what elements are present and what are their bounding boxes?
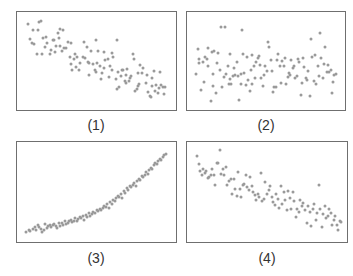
data-point xyxy=(41,231,44,234)
data-point xyxy=(331,224,334,227)
data-point xyxy=(246,55,249,58)
data-point xyxy=(157,87,160,90)
data-point xyxy=(259,171,262,174)
data-point xyxy=(220,25,223,28)
data-point xyxy=(132,58,135,61)
data-point xyxy=(239,83,242,86)
data-point xyxy=(274,86,277,89)
data-point xyxy=(44,35,47,38)
data-point xyxy=(113,200,116,203)
data-point xyxy=(223,25,226,28)
data-point xyxy=(332,80,335,83)
data-point xyxy=(281,202,284,205)
data-point xyxy=(238,188,241,191)
data-point xyxy=(56,32,59,35)
data-point xyxy=(261,85,264,88)
data-point xyxy=(255,199,258,202)
data-point xyxy=(147,90,150,93)
data-point xyxy=(92,62,95,65)
data-point xyxy=(239,72,242,75)
data-point xyxy=(197,61,200,64)
data-point xyxy=(77,69,80,72)
data-point xyxy=(218,148,221,151)
data-point xyxy=(223,174,226,177)
data-point xyxy=(136,71,139,74)
data-point xyxy=(160,158,163,161)
data-point xyxy=(284,199,287,202)
data-point xyxy=(285,209,288,212)
data-point xyxy=(37,28,40,31)
data-point xyxy=(152,69,155,72)
data-point xyxy=(281,60,284,63)
data-point xyxy=(266,41,269,44)
data-point xyxy=(238,98,241,101)
data-point xyxy=(276,59,279,62)
data-point xyxy=(144,81,147,84)
data-point xyxy=(127,189,130,192)
data-point xyxy=(216,61,219,64)
data-point xyxy=(197,163,200,166)
data-point xyxy=(320,225,323,228)
data-point xyxy=(117,70,120,73)
data-point xyxy=(240,195,243,198)
data-point xyxy=(322,213,325,216)
data-point xyxy=(278,65,281,68)
data-point xyxy=(293,64,296,67)
data-point xyxy=(324,45,327,48)
data-point xyxy=(125,73,128,76)
data-point xyxy=(257,54,260,57)
data-point xyxy=(205,58,208,61)
data-point xyxy=(337,228,340,231)
data-point xyxy=(304,209,307,212)
data-point xyxy=(329,69,332,72)
data-point xyxy=(334,214,337,217)
data-point xyxy=(142,67,145,70)
data-point xyxy=(307,69,310,72)
data-point xyxy=(294,215,297,218)
data-point xyxy=(196,155,199,158)
scatter-panel-4 xyxy=(186,141,348,243)
data-point xyxy=(243,71,246,74)
data-point xyxy=(102,67,105,70)
data-point xyxy=(94,70,97,73)
data-point xyxy=(229,78,232,81)
data-point xyxy=(35,228,38,231)
data-point xyxy=(94,39,97,42)
data-point xyxy=(121,196,124,199)
data-point xyxy=(114,78,117,81)
data-point xyxy=(110,69,113,72)
data-point xyxy=(278,206,281,209)
data-point xyxy=(259,63,262,66)
data-point xyxy=(290,207,293,210)
data-point xyxy=(252,64,255,67)
data-point xyxy=(100,209,103,212)
data-point xyxy=(126,68,129,71)
data-point xyxy=(71,69,74,72)
data-point xyxy=(54,51,57,54)
data-point xyxy=(206,64,209,67)
data-point xyxy=(305,222,308,225)
data-point xyxy=(308,95,311,98)
data-point xyxy=(200,88,203,91)
scatter-panel-3 xyxy=(16,141,177,243)
data-point xyxy=(282,65,285,68)
data-point xyxy=(203,80,206,83)
data-point xyxy=(308,211,311,214)
data-point xyxy=(299,94,302,97)
data-point xyxy=(282,191,285,194)
data-point xyxy=(111,56,114,59)
data-point xyxy=(249,176,252,179)
data-point xyxy=(196,48,199,51)
data-point xyxy=(272,90,275,93)
data-point xyxy=(277,52,280,55)
data-point xyxy=(256,57,259,60)
data-point xyxy=(306,78,309,81)
data-point xyxy=(55,44,58,47)
data-point xyxy=(317,183,320,186)
data-point xyxy=(134,184,137,187)
data-point xyxy=(273,203,276,206)
data-point xyxy=(62,29,65,32)
data-point xyxy=(110,51,113,54)
data-point xyxy=(298,60,301,63)
data-point xyxy=(288,196,291,199)
